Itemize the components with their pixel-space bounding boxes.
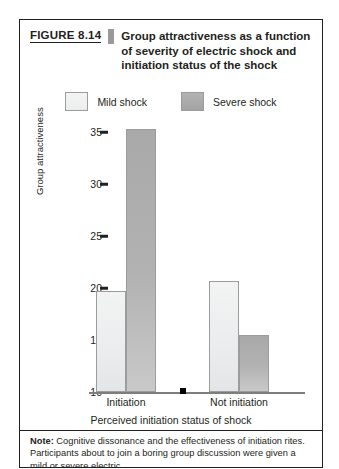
x-tick-label-initiation: Initiation — [106, 396, 145, 408]
bar-not-initiation-mild — [209, 281, 239, 392]
bar-initiation-mild — [96, 291, 126, 392]
bar-not-initiation-severe — [239, 335, 269, 392]
figure-card: FIGURE 8.14 Group attractiveness as a fu… — [19, 19, 323, 468]
bar-initiation-severe — [126, 129, 156, 392]
note-body: Cognitive dissonance and the effectivene… — [30, 436, 305, 468]
note-divider — [20, 430, 322, 431]
note-prefix: Note: — [30, 436, 54, 446]
chart-plot-area: Group attractiveness 35 30 25 20 15 10 I… — [20, 20, 322, 467]
x-axis-line — [89, 392, 305, 394]
bars-layer — [20, 20, 322, 392]
x-axis-title: Perceived initiation status of shock — [20, 414, 322, 426]
figure-note: Note: Cognitive dissonance and the effec… — [30, 435, 313, 468]
x-tick-label-not-initiation: Not initiation — [210, 396, 268, 408]
x-axis-center-tick — [180, 388, 186, 394]
